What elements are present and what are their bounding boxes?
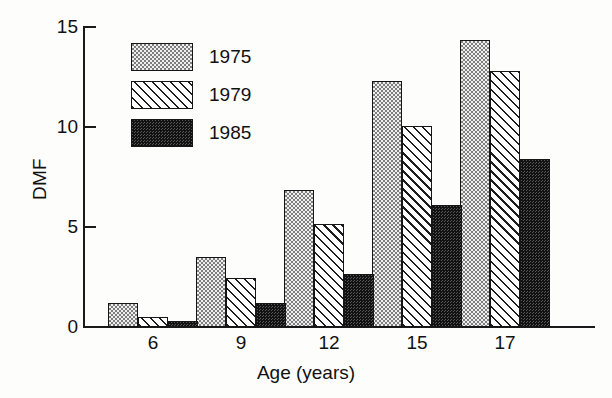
bar-1985-age-6 [168,321,198,327]
bar-1985-age-12 [344,274,374,327]
bar-1985-age-9 [256,303,286,327]
legend-label-1979: 1979 [209,83,251,107]
bar-1979-age-6 [138,317,168,327]
bar-1975-age-9 [196,257,226,327]
bar-1979-age-17 [490,71,520,327]
bar-1985-age-17 [520,159,550,327]
bar-1979-age-9 [226,278,256,327]
legend-swatch-1975 [131,43,193,71]
bar-1975-age-6 [108,303,138,327]
bar-1975-age-12 [284,190,314,327]
bar-1975-age-15 [372,81,402,327]
legend-label-1985: 1985 [209,121,251,145]
bar-1975-age-17 [460,40,490,327]
plot-area [0,0,612,398]
bar-chart-figure: 051015 DMF 69121517 Age (years) 19751979… [0,0,612,398]
bar-1985-age-15 [432,205,462,327]
legend-label-1975: 1975 [209,45,251,69]
bar-1979-age-12 [314,224,344,327]
legend-swatch-1985 [131,119,193,147]
legend-swatch-1979 [131,81,193,109]
bar-1979-age-15 [402,126,432,327]
